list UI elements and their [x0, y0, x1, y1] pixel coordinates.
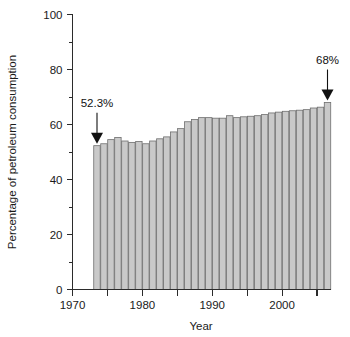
annotation-label: 68% [316, 54, 339, 66]
y-tick-label: 80 [50, 64, 63, 76]
bar [226, 116, 232, 290]
x-tick-label: 2000 [269, 299, 295, 311]
y-tick-label: 100 [43, 9, 62, 21]
chart-figure: 020406080100 1970198019902000 52.3%68% P… [0, 0, 350, 337]
bar [254, 116, 260, 290]
bar [101, 144, 107, 290]
bar [310, 108, 316, 290]
y-tick-label: 0 [56, 284, 62, 296]
bar [317, 107, 323, 289]
bar [220, 118, 226, 289]
y-tick-label: 40 [50, 174, 63, 186]
bar [94, 146, 100, 290]
bar [178, 129, 184, 290]
x-tick-label: 1990 [199, 299, 225, 311]
bar [108, 140, 114, 290]
bar [247, 116, 253, 289]
bar [289, 111, 295, 290]
x-tick-label: 1970 [60, 299, 86, 311]
bar [275, 112, 281, 289]
bar [150, 141, 156, 290]
bar [261, 115, 267, 290]
bar [206, 118, 212, 290]
y-axis-title: Percentage of petroleum consumption [6, 55, 18, 249]
bar [233, 118, 239, 290]
annotation-start: 52.3% [81, 97, 114, 144]
bar [129, 142, 135, 289]
bar [164, 137, 170, 290]
annotation-end: 68% [316, 54, 339, 101]
x-axis-tick-labels: 1970198019902000 [60, 299, 295, 311]
bar-chart-canvas: 020406080100 1970198019902000 52.3%68% P… [0, 0, 350, 337]
bar [171, 132, 177, 290]
bar [192, 120, 198, 290]
bar [303, 110, 309, 290]
bar [185, 122, 191, 290]
bar [157, 139, 163, 290]
x-axis-title: Year [189, 320, 212, 332]
bar [296, 110, 302, 289]
bar [122, 141, 128, 290]
bar [268, 113, 274, 290]
down-arrow-icon [91, 133, 103, 144]
bar [136, 142, 142, 290]
down-arrow-icon [322, 90, 334, 101]
bar-series [94, 103, 331, 290]
y-tick-label: 20 [50, 229, 63, 241]
y-axis-tick-labels: 020406080100 [43, 9, 62, 296]
bar [115, 137, 121, 289]
y-tick-label: 60 [50, 119, 63, 131]
bar [199, 118, 205, 290]
bar [240, 117, 246, 290]
bar [282, 111, 288, 289]
bar [324, 103, 330, 290]
bar [213, 118, 219, 289]
annotation-label: 52.3% [81, 97, 114, 109]
bar [143, 144, 149, 290]
x-tick-label: 1980 [130, 299, 156, 311]
